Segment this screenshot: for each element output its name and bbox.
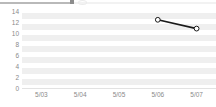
grid-band [22, 57, 216, 63]
y-axis-tick-label: 10 [0, 30, 19, 37]
x-axis-line [22, 88, 216, 89]
x-axis-tick-label: 5/03 [21, 91, 61, 99]
scrollbar-track[interactable] [0, 2, 216, 4]
x-axis-tick-label: 5/06 [138, 91, 178, 99]
scrollbar-handle-icon[interactable] [70, 0, 74, 4]
y-axis-tick-label: 6 [0, 52, 19, 59]
y-axis-tick-label: 14 [0, 8, 19, 15]
x-axis-tick-label: 5/07 [177, 91, 216, 99]
y-axis-tick-label: 12 [0, 19, 19, 26]
grid-band [22, 68, 216, 74]
y-axis-tick-label: 2 [0, 74, 19, 81]
grid-band [22, 46, 216, 52]
grid-band [22, 79, 216, 85]
y-axis-tick-label: 8 [0, 41, 19, 48]
x-axis-tick-label: 5/05 [99, 91, 139, 99]
x-axis-tick-label: 5/04 [60, 91, 100, 99]
grid-band [22, 24, 216, 30]
plot-area [22, 11, 216, 88]
scrollbar-marker-icon [78, 0, 87, 5]
chart-widget: 02468101214 5/035/045/055/065/07 [0, 0, 216, 107]
y-axis-tick-label: 0 [0, 85, 19, 92]
y-axis-tick-label: 4 [0, 63, 19, 70]
grid-band [22, 35, 216, 41]
grid-band [22, 13, 216, 19]
y-axis: 02468101214 [0, 0, 19, 107]
